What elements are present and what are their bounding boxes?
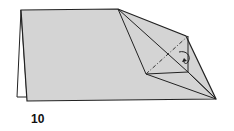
- step-number: 10: [31, 112, 44, 126]
- paper-body: [21, 9, 216, 101]
